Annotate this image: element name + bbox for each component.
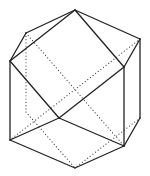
visible-edge-center_low-left_bottom [10, 118, 59, 140]
hidden-edge-hidden_left_low-bottom [26, 112, 75, 168]
visible-edge-right_top-right_inner [124, 39, 140, 67]
hidden-edge-right_bottom-bottom [75, 118, 140, 168]
polyhedron-diagram [0, 0, 150, 176]
visible-edge-center_low-bottom_right [59, 118, 124, 146]
visible-edge-top-right_inner [75, 10, 124, 67]
polyhedron-drawing [0, 0, 150, 176]
visible-edge-left_top-center_low [10, 61, 59, 118]
visible-edges [10, 10, 140, 168]
visible-edge-top-right_top [75, 10, 140, 39]
visible-edge-left_bottom-bottom [10, 140, 75, 168]
visible-edge-right_bottom-bottom_right [124, 118, 140, 146]
visible-edge-right_inner-center_low [59, 67, 124, 118]
visible-edge-top-left_top [10, 10, 75, 61]
visible-edge-bottom-bottom_right [75, 146, 124, 168]
visible-edge-upper_left-left_top [10, 33, 26, 61]
